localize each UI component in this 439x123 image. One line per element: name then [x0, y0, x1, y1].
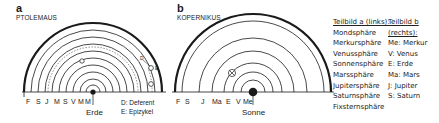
panel-b-letter: b — [177, 3, 184, 14]
legend-b-item: E: Erde — [388, 59, 427, 70]
earth-symbol-icon — [228, 69, 235, 76]
axis-label-a-0: F — [26, 98, 30, 106]
legend-b-item: J: Jupiter — [388, 81, 427, 92]
sun-center-icon — [249, 88, 258, 97]
legend-a-item: Saturnsphäre — [333, 91, 390, 102]
legend-a-item: Fixsternsphäre — [333, 102, 390, 113]
legend-a-item: Sonnensphäre — [333, 59, 390, 70]
axis-label-a-7: M — [85, 98, 91, 106]
legend-a-item: Merkursphäre — [333, 38, 390, 49]
panel-a-letter: a — [16, 3, 22, 14]
axis-label-a-6: M — [78, 98, 84, 106]
legend-column-a: Teilbild a (links): Mondsphäre Merkursph… — [333, 17, 390, 112]
epizykel-note: E: Epizykel — [121, 108, 153, 116]
legend-b-item: Ma: Mars — [388, 70, 427, 81]
legend-a-item: Jupitersphäre — [333, 81, 390, 92]
axis-label-b-0: F — [176, 98, 180, 106]
legend-a-item: Mondsphäre — [333, 28, 390, 39]
axis-label-b-3: Ma — [212, 98, 222, 106]
axis-label-b-1: S — [185, 98, 190, 106]
earth-center-icon — [90, 89, 95, 94]
deferent-marker: D — [140, 55, 144, 61]
legend-b-header-1: Teilbild b — [388, 17, 427, 28]
legend-b-item: V: Venus — [388, 49, 427, 60]
axis-label-a-3: M — [54, 98, 60, 106]
axis-label-b-5: V — [236, 98, 241, 106]
axis-label-a-1: S — [36, 98, 41, 106]
epizykel-marker: E — [155, 65, 158, 71]
axis-label-a-4: S — [63, 98, 68, 106]
axis-label-b-4: E — [226, 98, 231, 106]
legend-column-b: Teilbild b (rechts): Me: Merkur V: Venus… — [388, 17, 427, 102]
sonne-label: Sonne — [242, 108, 265, 117]
erde-label: Erde — [86, 108, 103, 117]
legend-b-header-2: (rechts): — [388, 28, 427, 39]
axis-label-b-2: J — [201, 98, 205, 106]
legend-b-item: Me: Merkur — [388, 38, 427, 49]
deferent-note: D: Deferent — [121, 99, 154, 107]
axis-label-a-2: J — [45, 98, 49, 106]
panel-b-title: KOPERNIKUS — [177, 14, 221, 21]
legend-a-item: Marssphäre — [333, 70, 390, 81]
legend-a-item: Venussphäre — [333, 49, 390, 60]
legend-a-header: Teilbild a (links): — [333, 17, 390, 28]
axis-label-b-6: Me — [243, 98, 253, 106]
legend-b-item: S: Saturn — [388, 91, 427, 102]
axis-label-a-5: V — [71, 98, 76, 106]
panel-a-title: PTOLEMAUS — [16, 14, 57, 21]
